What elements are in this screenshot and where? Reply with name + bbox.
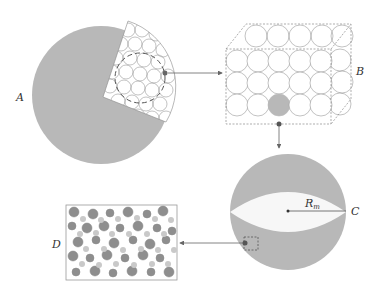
lattice-box-b	[226, 24, 353, 127]
particle-box-d	[66, 205, 177, 280]
multiscale-diagram: A B Rm C	[0, 0, 376, 296]
label-b: B	[355, 65, 364, 78]
label-a: A	[15, 91, 24, 104]
sphere-a	[32, 21, 176, 164]
label-c: C	[351, 205, 360, 218]
sphere-c	[230, 154, 346, 270]
label-d: D	[51, 238, 61, 251]
